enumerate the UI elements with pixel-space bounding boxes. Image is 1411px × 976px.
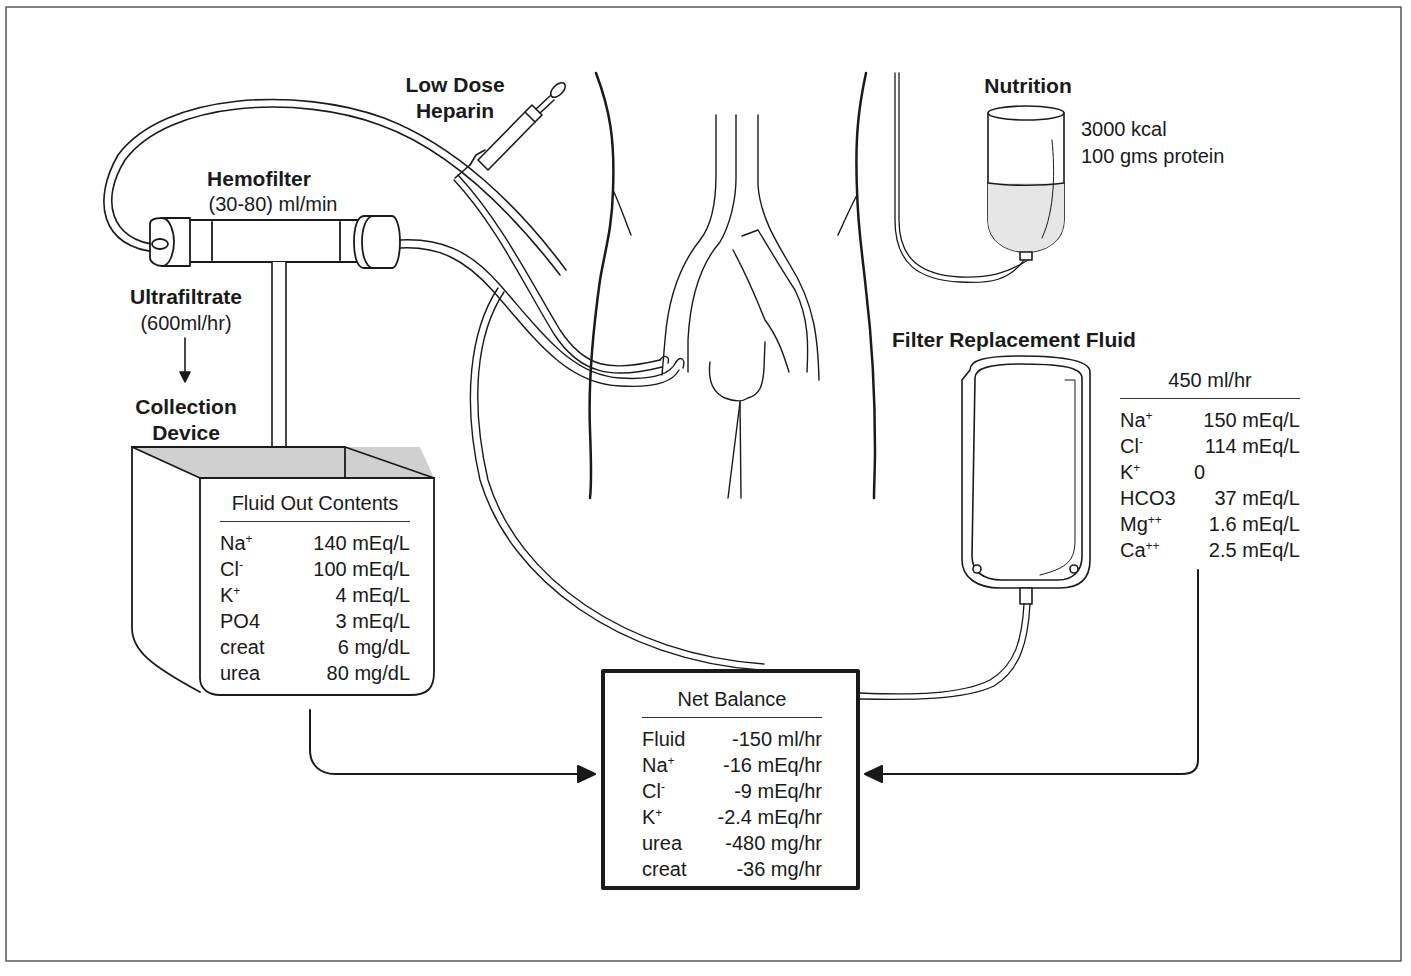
table-row: Na+150 mEq/L (1120, 407, 1300, 433)
table-row: PO43 mEq/L (220, 608, 410, 634)
arrow-down-icon (180, 338, 190, 382)
replacement-fluid-title: Filter Replacement Fluid (892, 329, 1136, 350)
table-row: Fluid-150 ml/hr (642, 726, 822, 752)
collection-device-line2: Device (152, 422, 220, 443)
hemofilter-icon (150, 216, 400, 268)
ultrafiltrate-rate: (600ml/hr) (140, 313, 231, 333)
catheter-lines (400, 175, 684, 386)
replacement-fluid-rate: 450 ml/hr (1120, 369, 1300, 399)
table-row: Cl-100 mEq/L (220, 556, 410, 582)
ultrafiltrate-tube (272, 262, 286, 465)
table-row: K+0 (1120, 459, 1300, 485)
ultrafiltrate-title: Ultrafiltrate (130, 286, 242, 307)
hemofilter-title: Hemofilter (207, 168, 311, 189)
table-row: creat-36 mg/hr (642, 856, 822, 882)
fluid-out-title: Fluid Out Contents (220, 492, 410, 522)
table-row: Mg++1.6 mEq/L (1120, 511, 1300, 537)
return-tube (470, 288, 764, 670)
body-outline (590, 73, 875, 498)
collection-device-line1: Collection (135, 396, 237, 417)
table-row: Cl--9 mEq/hr (642, 778, 822, 804)
replacement-bag-icon (962, 356, 1090, 604)
table-row: Cl-114 mEq/L (1120, 433, 1300, 459)
table-row: creat6 mg/dL (220, 634, 410, 660)
fluid-out-table: Fluid Out Contents Na+140 mEq/L Cl-100 m… (220, 492, 410, 686)
table-row: Ca++2.5 mEq/L (1120, 537, 1300, 563)
nutrition-protein: 100 gms protein (1081, 146, 1224, 166)
table-row: K+4 mEq/L (220, 582, 410, 608)
replacement-tube (860, 604, 1030, 699)
table-row: Na+-16 mEq/hr (642, 752, 822, 778)
nutrition-title: Nutrition (984, 75, 1071, 96)
nutrition-kcal: 3000 kcal (1081, 119, 1167, 139)
heparin-label-line2: Heparin (416, 100, 494, 121)
table-row: Na+140 mEq/L (220, 530, 410, 556)
body-details (613, 115, 857, 498)
arrow-fluid-out (310, 710, 595, 782)
table-row: urea-480 mg/hr (642, 830, 822, 856)
table-row: HCO337 mEq/L (1120, 485, 1300, 511)
nutrition-bag-icon (988, 106, 1064, 260)
table-row: K+-2.4 mEq/hr (642, 804, 822, 830)
heparin-label-line1: Low Dose (405, 74, 504, 95)
net-balance-title: Net Balance (642, 688, 822, 718)
net-balance-table: Net Balance Fluid-150 ml/hr Na+-16 mEq/h… (642, 688, 822, 882)
table-row: urea80 mg/dL (220, 660, 410, 686)
replacement-fluid-table: 450 ml/hr Na+150 mEq/L Cl-114 mEq/L K+0 … (1120, 369, 1300, 563)
hemofilter-rate: (30-80) ml/min (209, 194, 338, 214)
